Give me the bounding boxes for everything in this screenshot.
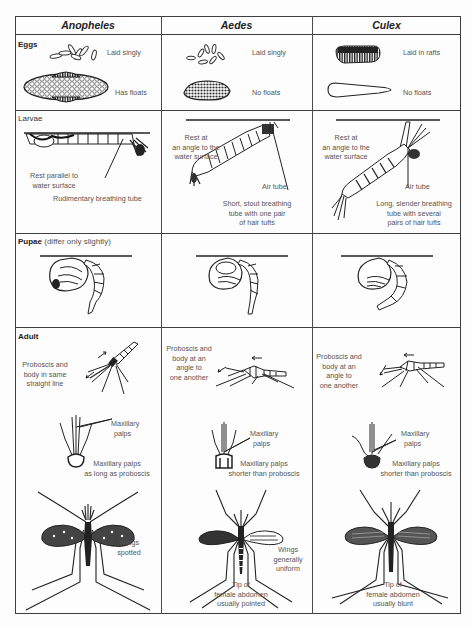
aedes-adult-side-drawing	[214, 356, 298, 390]
aedes-wings-line3: uniform	[268, 564, 308, 574]
anopheles-posture-line2: body in same	[20, 370, 70, 380]
aedes-larva-position-line1: Rest at	[166, 133, 226, 143]
aedes-pupa-drawing	[196, 254, 292, 320]
culex-eggs-laying-label: Laid in rafts	[403, 48, 440, 58]
anopheles-palps-length-line2: as long as proboscis	[80, 469, 154, 479]
anopheles-adult-posture-label: Proboscis and body in same straight line	[20, 360, 70, 389]
aedes-tip-line2: female abdomen	[205, 590, 277, 600]
aedes-palps-line2: palps	[250, 439, 278, 449]
aedes-larva-position-line2: an angle to the	[166, 143, 226, 153]
culex-egg-single-drawing	[327, 81, 393, 99]
anopheles-eggs-floats-label: Has floats	[115, 88, 147, 98]
aedes-adult-posture-label: Proboscis and body at an angle to one an…	[164, 344, 214, 382]
culex-larva-tube-line3: pairs of hair tufts	[368, 218, 460, 228]
aedes-palps-length-line1: Maxillary palps	[222, 459, 306, 469]
aedes-wings-line1: Wings	[268, 545, 308, 555]
aedes-palps-length-line2: shorter than proboscis	[222, 469, 306, 479]
culex-adult-side-drawing	[380, 353, 452, 393]
culex-larva-air-tube-label: Air tube	[405, 182, 430, 192]
aedes-larva-position-label: Rest at an angle to the water surface	[166, 133, 226, 162]
culex-larva-position-line1: Rest at	[316, 133, 376, 143]
pupae-title: Pupae	[18, 237, 42, 246]
aedes-posture-line4: one another	[164, 373, 214, 383]
aedes-tip-line3: usually pointed	[205, 599, 277, 609]
aedes-larva-tube-label: Short, stout breathing tube with one pai…	[212, 199, 302, 228]
culex-palps-length-line1: Maxillary palps	[374, 459, 458, 469]
anopheles-wings-line1: Wings	[112, 538, 146, 548]
culex-palps-length-line2: shorter than proboscis	[374, 469, 458, 479]
anopheles-palps-label: Maxillary palps	[111, 419, 139, 438]
culex-larva-position-line2: an angle to the	[316, 143, 376, 153]
aedes-palps-label: Maxillary palps	[250, 429, 278, 448]
culex-tip-line2: female abdomen	[357, 590, 429, 600]
culex-tip-line1: Tip of	[357, 580, 429, 590]
anopheles-posture-line3: straight line	[20, 379, 70, 389]
row-title-larvae: Larvae	[18, 114, 42, 123]
culex-abdomen-tip-label: Tip of female abdomen usually blunt	[357, 580, 429, 609]
aedes-posture-line2: body at an	[164, 354, 214, 364]
anopheles-eggs-singly-drawing	[48, 42, 100, 64]
column-header-aedes: Aedes	[161, 17, 312, 34]
anopheles-pupa-drawing	[38, 254, 134, 320]
row-title-pupae: Pupae (differ only slightly)	[18, 237, 111, 246]
aedes-palps-line1: Maxillary	[250, 429, 278, 439]
row-title-eggs: Eggs	[18, 40, 38, 49]
anopheles-wings-line2: spotted	[112, 548, 146, 558]
row-title-adult: Adult	[18, 332, 38, 341]
aedes-larva-tube-line1: Short, stout breathing	[212, 199, 302, 209]
culex-larva-tube-label: Long, slender breathing tube with severa…	[368, 199, 460, 228]
culex-posture-line2: body at an	[313, 362, 365, 372]
aedes-larva-tube-line2: tube with one pair	[212, 209, 302, 219]
culex-posture-line4: one another	[313, 381, 365, 391]
aedes-wings-label: Wings generally uniform	[268, 545, 308, 574]
column-divider-1	[161, 16, 162, 614]
anopheles-palps-length-label: Maxillary palps as long as proboscis	[80, 459, 154, 478]
culex-tip-line3: usually blunt	[357, 599, 429, 609]
anopheles-palps-line1: Maxillary	[111, 419, 139, 429]
culex-posture-line1: Proboscis and	[313, 352, 365, 362]
anopheles-palps-line2: palps	[111, 429, 139, 439]
aedes-eggs-floats-label: No floats	[252, 88, 280, 98]
culex-palps-line2: palps	[401, 439, 429, 449]
aedes-wings-line2: generally	[268, 555, 308, 565]
culex-pupa-drawing	[341, 254, 437, 320]
culex-palps-length-label: Maxillary palps shorter than proboscis	[374, 459, 458, 478]
culex-larva-position-label: Rest at an angle to the water surface	[316, 133, 376, 162]
row-divider-eggs	[15, 110, 461, 111]
aedes-larva-tube-line3: of hair tufts	[212, 218, 302, 228]
aedes-egg-nofloats-drawing	[182, 80, 232, 102]
aedes-posture-line3: angle to	[164, 363, 214, 373]
column-header-anopheles: Anopheles	[15, 17, 161, 34]
anopheles-larva-position-line2: water surface	[22, 181, 86, 191]
anopheles-larva-position-label: Rest parallel to water surface	[22, 171, 86, 190]
aedes-eggs-singly-drawing	[186, 43, 228, 69]
anopheles-palps-length-line1: Maxillary palps	[80, 459, 154, 469]
anopheles-larva-position-line1: Rest parallel to	[22, 171, 86, 181]
row-divider-larvae	[15, 233, 461, 234]
culex-eggs-floats-label: No floats	[403, 88, 431, 98]
aedes-posture-line1: Proboscis and	[164, 344, 214, 354]
aedes-larva-position-line3: water surface	[166, 152, 226, 162]
aedes-tip-line1: Tip of	[205, 580, 277, 590]
culex-larva-tube-line2: tube with several	[368, 209, 460, 219]
aedes-abdomen-tip-label: Tip of female abdomen usually pointed	[205, 580, 277, 609]
column-divider-2	[312, 16, 313, 614]
aedes-palps-length-label: Maxillary palps shorter than proboscis	[222, 459, 306, 478]
header-divider	[15, 34, 461, 35]
culex-posture-line3: angle to	[313, 371, 365, 381]
culex-palps-label: Maxillary palps	[401, 429, 429, 448]
culex-larva-position-line3: water surface	[316, 152, 376, 162]
anopheles-egg-floats-drawing	[22, 69, 110, 103]
anopheles-larva-tube-label: Rudimentary breathing tube	[53, 194, 142, 204]
culex-palps-line1: Maxillary	[401, 429, 429, 439]
culex-adult-posture-label: Proboscis and body at an angle to one an…	[313, 352, 365, 390]
anopheles-posture-line1: Proboscis and	[20, 360, 70, 370]
culex-egg-raft-drawing	[334, 45, 382, 65]
pupae-subtitle: (differ only slightly)	[44, 237, 111, 246]
anopheles-wings-label: Wings spotted	[112, 538, 146, 557]
aedes-larva-air-tube-label: Air tube	[262, 182, 287, 192]
anopheles-adult-side-drawing	[82, 340, 142, 398]
anopheles-eggs-laying-label: Laid singly	[107, 48, 141, 58]
aedes-eggs-laying-label: Laid singly	[252, 48, 286, 58]
column-header-culex: Culex	[312, 17, 461, 34]
